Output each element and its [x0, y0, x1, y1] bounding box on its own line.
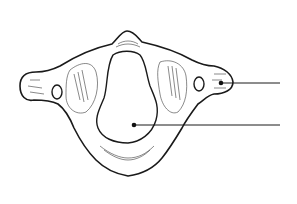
right-foramen-transversarium [194, 77, 204, 91]
leader-dot-vertebral-foramen [132, 123, 137, 128]
atlas-vertebra-illustration [0, 0, 297, 204]
diagram-stage [0, 0, 297, 204]
leader-dot-transverse-process [219, 81, 224, 86]
left-foramen-transversarium [52, 85, 62, 99]
